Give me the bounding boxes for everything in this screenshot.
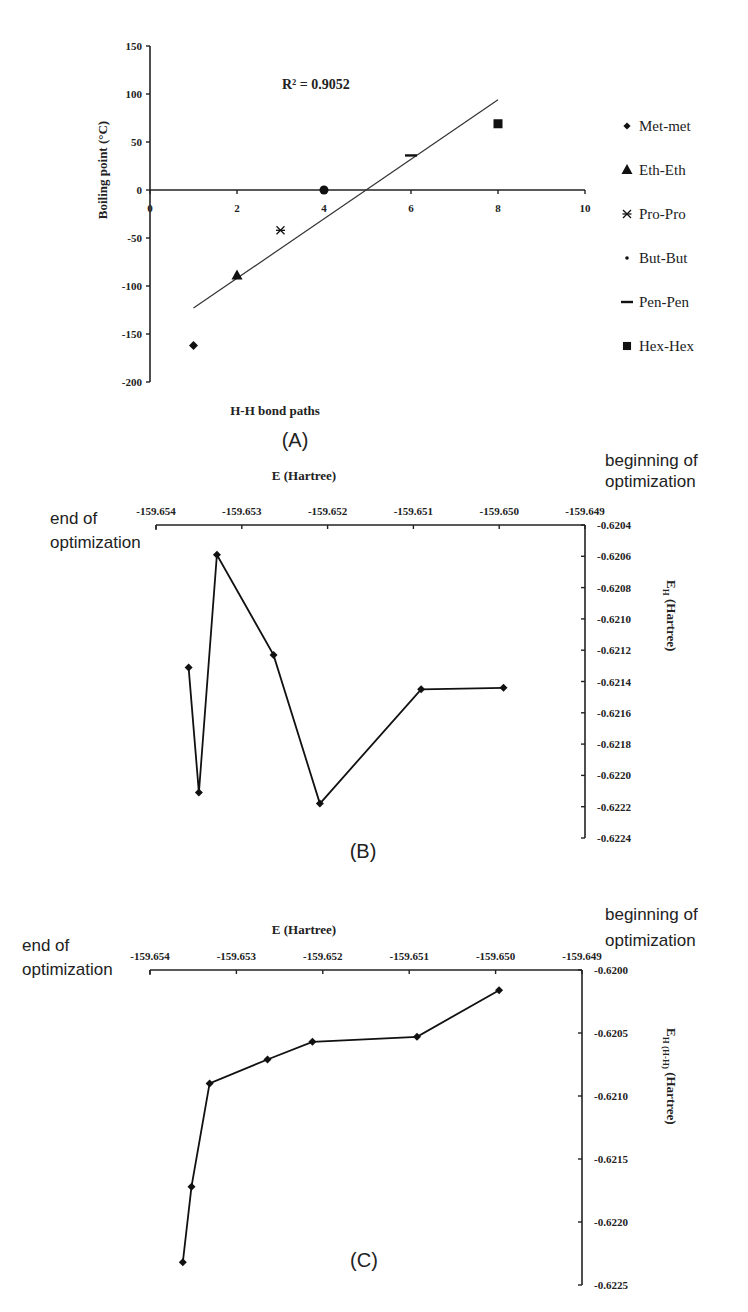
chart-b-beginning-label-1: beginning of — [605, 451, 698, 470]
legend-item: But-But — [625, 250, 688, 266]
y-tick-label: 0 — [137, 184, 143, 196]
legend-item: Pen-Pen — [621, 294, 689, 310]
y-tick-label: -0.6210 — [594, 1090, 628, 1102]
y-tick-label: -0.6208 — [597, 582, 631, 594]
x-tick-label: -159.651 — [394, 505, 433, 517]
x-tick-label: -159.650 — [476, 950, 516, 962]
chart-c-x-axis-label: E (Hartree) — [272, 922, 336, 937]
chart-b-x-axis-label: E (Hartree) — [272, 468, 336, 483]
chart-c-ehhh-vs-energy: beginning of optimization E (Hartree) en… — [22, 905, 698, 1291]
legend-label: But-But — [639, 250, 688, 266]
legend-item: Met-met — [623, 118, 691, 134]
y-tick-label: -0.6206 — [597, 550, 631, 562]
y-tick-label: -150 — [122, 328, 143, 340]
data-point-diamond — [495, 986, 503, 994]
panel-label-b: (B) — [350, 840, 377, 862]
marker-asterisk — [276, 226, 285, 234]
y-tick-label: -0.6205 — [594, 1027, 628, 1039]
chart-c-beginning-label-2: optimization — [605, 931, 696, 950]
chart-b-end-label-1: end of — [50, 509, 98, 528]
panel-label-a: (A) — [282, 429, 309, 451]
chart-a-x-axis-label: H-H bond paths — [230, 403, 320, 418]
x-tick-label: -159.652 — [308, 505, 348, 517]
marker-triangle — [622, 164, 633, 174]
figure: 150100500-50-100-150-2000246810 R² = 0.9… — [0, 0, 748, 1312]
series-line — [183, 990, 499, 1262]
y-tick-label: -0.6212 — [597, 644, 631, 656]
legend-label: Pen-Pen — [639, 294, 689, 310]
legend-label: Met-met — [639, 118, 691, 134]
y-tick-label: -0.6204 — [597, 519, 631, 531]
x-tick-label: -159.653 — [222, 505, 262, 517]
chart-c-y-axis-label: EH (H-H) (Hartree) — [661, 1028, 679, 1125]
chart-b-y-axis-label: EH (Hartree) — [661, 580, 679, 651]
data-point-diamond — [213, 551, 221, 559]
y-tick-label: -0.6218 — [597, 738, 631, 750]
chart-a-axes — [146, 46, 585, 382]
panel-label-c: (C) — [350, 1249, 378, 1271]
chart-b-beginning-label-2: optimization — [605, 472, 696, 491]
x-tick-label: -159.649 — [562, 950, 602, 962]
svg-text:EH (Hartree): EH (Hartree) — [661, 580, 679, 651]
chart-b-series — [185, 551, 508, 808]
chart-a-points — [189, 119, 503, 350]
marker-circle — [320, 186, 329, 195]
chart-c-end-label-2: optimization — [22, 960, 113, 979]
r-squared-annotation: R² = 0.9052 — [282, 77, 350, 92]
legend-label: Hex-Hex — [639, 338, 694, 354]
data-point-diamond — [185, 663, 193, 671]
x-tick-label: -159.650 — [479, 505, 519, 517]
y-tick-label: -0.6220 — [597, 769, 631, 781]
y-tick-label: 150 — [126, 40, 143, 52]
chart-a-tick-labels: 150100500-50-100-150-2000246810 — [122, 40, 591, 388]
y-tick-label: 50 — [131, 136, 143, 148]
data-point-diamond — [499, 684, 507, 692]
y-tick-label: -0.6210 — [597, 613, 631, 625]
svg-text:EH (H-H) (Hartree): EH (H-H) (Hartree) — [661, 1028, 679, 1125]
marker-square — [623, 342, 631, 350]
chart-c-beginning-label-1: beginning of — [605, 905, 698, 924]
chart-c-end-label-1: end of — [22, 936, 70, 955]
chart-a-boiling-point: 150100500-50-100-150-2000246810 R² = 0.9… — [95, 40, 694, 451]
marker-diamond — [623, 122, 630, 129]
x-tick-label: -159.654 — [136, 505, 176, 517]
chart-a-legend: Met-metEth-EthPro-ProBut-ButPen-PenHex-H… — [621, 118, 694, 354]
x-tick-label: 6 — [408, 202, 414, 214]
marker-square — [494, 119, 503, 128]
chart-b-eh-vs-energy: E (Hartree) beginning of optimization en… — [50, 451, 698, 862]
marker-diamond — [189, 341, 198, 350]
x-tick-label: 10 — [580, 202, 592, 214]
data-point-diamond — [179, 1258, 187, 1266]
y-tick-label: -0.6216 — [597, 707, 631, 719]
x-tick-label: -159.649 — [565, 505, 605, 517]
marker-triangle — [232, 269, 243, 279]
chart-c-tick-labels: -159.654-159.653-159.652-159.651-159.650… — [130, 950, 628, 1291]
x-tick-label: -159.653 — [217, 950, 257, 962]
data-point-diamond — [264, 1055, 272, 1063]
chart-b-end-label-2: optimization — [50, 533, 141, 552]
x-tick-label: 8 — [495, 202, 501, 214]
legend-item: Hex-Hex — [623, 338, 695, 354]
marker-dash — [621, 301, 633, 303]
x-tick-label: 2 — [234, 202, 240, 214]
legend-item: Eth-Eth — [622, 162, 687, 178]
chart-b-tick-labels: -159.654-159.653-159.652-159.651-159.650… — [136, 505, 631, 844]
data-point-diamond — [195, 789, 203, 797]
data-point-diamond — [270, 651, 278, 659]
marker-circle — [625, 256, 629, 260]
x-tick-label: -159.651 — [389, 950, 428, 962]
y-tick-label: -0.6200 — [594, 964, 628, 976]
y-tick-label: -100 — [122, 280, 143, 292]
data-point-diamond — [413, 1033, 421, 1041]
y-tick-label: 100 — [126, 88, 143, 100]
y-tick-label: -0.6215 — [594, 1153, 628, 1165]
data-point-diamond — [206, 1079, 214, 1087]
x-tick-label: -159.652 — [303, 950, 343, 962]
chart-c-axes — [150, 970, 582, 1285]
data-point-diamond — [308, 1038, 316, 1046]
legend-label: Pro-Pro — [639, 206, 686, 222]
chart-c-series — [179, 986, 503, 1266]
x-tick-label: 4 — [321, 202, 327, 214]
y-tick-label: -0.6220 — [594, 1216, 628, 1228]
y-tick-label: -0.6225 — [594, 1279, 628, 1291]
